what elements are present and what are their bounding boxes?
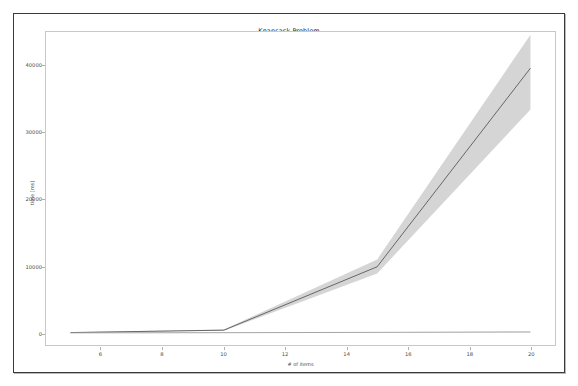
series-line-1 bbox=[71, 332, 531, 333]
x-tick-mark bbox=[408, 347, 409, 350]
y-tick-label: 30000 bbox=[25, 129, 42, 135]
x-tick-label: 6 bbox=[99, 351, 102, 357]
y-tick-label: 40000 bbox=[25, 62, 42, 68]
chart-svg bbox=[46, 32, 555, 345]
x-tick-label: 14 bbox=[343, 351, 350, 357]
confidence-band-0 bbox=[71, 35, 531, 333]
x-tick-label: 16 bbox=[405, 351, 412, 357]
y-axis-tick-labels: 010000200003000040000 bbox=[14, 31, 42, 346]
x-tick-label: 18 bbox=[466, 351, 473, 357]
x-tick-mark bbox=[531, 347, 532, 350]
x-tick-label: 10 bbox=[220, 351, 227, 357]
x-tick-label: 20 bbox=[528, 351, 535, 357]
x-tick-label: 8 bbox=[160, 351, 163, 357]
y-axis-title: time [ms] bbox=[29, 181, 35, 205]
y-tick-label: 10000 bbox=[25, 264, 42, 270]
x-tick-mark bbox=[162, 347, 163, 350]
plot-axes bbox=[45, 31, 556, 346]
x-tick-mark bbox=[347, 347, 348, 350]
plot-surface bbox=[46, 32, 555, 345]
x-tick-mark bbox=[285, 347, 286, 350]
figure-window: Knapsack Problem 010000200003000040000 t… bbox=[13, 13, 565, 373]
x-tick-label: 12 bbox=[282, 351, 289, 357]
x-axis-title: # of items bbox=[45, 361, 556, 367]
series-line-0 bbox=[71, 68, 531, 332]
x-tick-mark bbox=[470, 347, 471, 350]
x-axis-tick-labels: 68101214161820 bbox=[45, 347, 556, 361]
x-tick-mark bbox=[224, 347, 225, 350]
x-tick-mark bbox=[100, 347, 101, 350]
